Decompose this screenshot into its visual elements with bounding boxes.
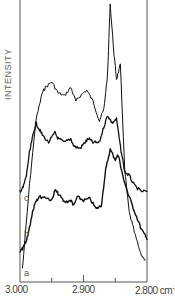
x-tick-label-2800: 2.800 cm-1 — [135, 284, 175, 296]
x-tick-label-2900: 2.900 — [72, 284, 95, 295]
curves — [20, 4, 147, 268]
spectrum-chart — [0, 0, 175, 298]
y-axis-label: INTENSITY — [3, 48, 13, 100]
x-tick-label-3000: 3.000 — [5, 284, 28, 295]
spectrum-curve-a — [23, 4, 146, 268]
curve-label-b: b — [24, 229, 29, 239]
x-ticks — [52, 275, 116, 282]
spectrum-curve-c — [20, 117, 147, 193]
curve-label-a: a — [24, 268, 29, 278]
curve-label-c: c — [24, 193, 29, 203]
